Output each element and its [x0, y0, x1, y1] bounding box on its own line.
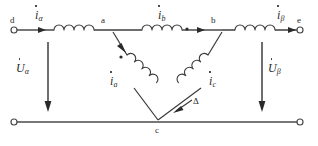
current-label-i-b: ib: [158, 9, 166, 23]
current-symbol-i-c: i: [209, 74, 212, 88]
terminal-e-circle: [297, 27, 303, 33]
terminal-bottom-left-circle: [11, 119, 17, 125]
circuit-diagram: d e a b c iα ib iβ ia ic Uα Uβ Δ: [0, 0, 318, 146]
current-subscript-beta: β: [281, 14, 285, 23]
current-subscript-c: c: [213, 80, 217, 89]
current-label-i-alpha: iα: [35, 9, 43, 23]
polarity-dot-b-winding: [185, 27, 188, 30]
current-subscript-a: a: [114, 80, 118, 89]
inductor-a-winding: [127, 53, 158, 82]
arrow-i-alpha: [38, 27, 46, 33]
wire-b-to-coil-c: [208, 32, 222, 55]
inductor-b-winding: [142, 25, 182, 30]
voltage-label-u-alpha: Uα: [16, 62, 29, 76]
inductor-beta-winding: [235, 25, 275, 30]
terminal-label-d: d: [10, 16, 15, 25]
polarity-dot-a-winding: [119, 55, 122, 58]
voltage-arrow-alpha-head: [45, 101, 52, 112]
current-subscript-alpha: α: [39, 14, 43, 23]
delta-connection-label: Δ: [193, 97, 199, 106]
voltage-subscript-beta: β: [277, 67, 281, 76]
current-label-i-a: ia: [110, 75, 118, 89]
node-label-b: b: [211, 16, 216, 25]
terminal-d-circle: [11, 27, 17, 33]
voltage-symbol-u-alpha: U: [16, 61, 25, 75]
current-symbol-i-beta: i: [277, 8, 280, 22]
current-symbol-i-b: i: [158, 8, 161, 22]
voltage-subscript-alpha: α: [25, 67, 29, 76]
current-symbol-i-a: i: [110, 74, 113, 88]
terminal-bottom-right-circle: [297, 119, 303, 125]
current-label-i-beta: iβ: [277, 9, 285, 23]
inductor-c-winding: [177, 53, 208, 82]
arrow-i-a: [117, 43, 126, 53]
terminal-label-e: e: [297, 16, 301, 25]
wire-coil-a-to-c: [134, 88, 158, 120]
node-label-c: c: [155, 126, 159, 135]
current-subscript-b: b: [162, 14, 166, 23]
voltage-label-u-beta: Uβ: [268, 62, 281, 76]
node-label-a: a: [101, 16, 105, 25]
current-label-i-c: ic: [209, 75, 216, 89]
voltage-symbol-u-beta: U: [268, 61, 277, 75]
current-symbol-i-alpha: i: [35, 8, 38, 22]
inductor-alpha-winding: [54, 25, 94, 30]
arrow-i-b: [197, 27, 205, 33]
voltage-arrow-beta-head: [259, 101, 266, 112]
arrow-i-beta: [288, 27, 296, 33]
